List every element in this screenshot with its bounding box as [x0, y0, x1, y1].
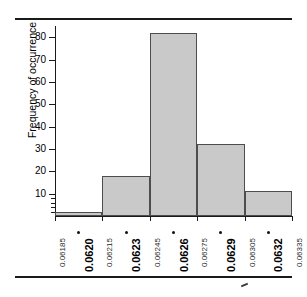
y-tick-label-20: 20 [20, 166, 46, 176]
y-tick-label-40: 40 [20, 122, 46, 132]
bar-0.0629 [197, 144, 244, 216]
y-tick-label-10: 10 [20, 189, 46, 199]
top-horizontal-rule [15, 18, 292, 20]
scan-artifact-mark [241, 283, 248, 287]
x-center-label-0.0632: 0.0632 [273, 238, 284, 272]
figure-panel: Frequency of occurrence 1020304050607080… [0, 0, 307, 297]
x-center-label-0.0626: 0.0626 [179, 238, 190, 272]
y-tick-label-80: 80 [20, 32, 46, 42]
x-tick-0.06185 [55, 216, 56, 221]
y-tick-label-30: 30 [20, 144, 46, 154]
x-center-dot-0.0623 [125, 231, 128, 234]
y-tick-label-70: 70 [20, 55, 46, 65]
x-edge-label-0.06245: 0.06245 [154, 238, 162, 267]
y-tick-label-60: 60 [20, 77, 46, 87]
x-center-dot-0.0632 [267, 231, 270, 234]
x-center-dot-0.0620 [77, 231, 80, 234]
x-edge-label-0.06335: 0.06335 [296, 238, 304, 267]
x-tick-0.06305 [245, 216, 246, 221]
bar-0.0623 [102, 176, 149, 216]
bar-0.0632 [245, 191, 292, 216]
x-center-label-0.0623: 0.0623 [131, 238, 142, 272]
x-tick-0.06215 [102, 216, 103, 221]
bar-0.0626 [150, 33, 197, 216]
x-edge-label-0.06215: 0.06215 [106, 238, 114, 267]
x-center-label-0.0620: 0.0620 [84, 238, 95, 272]
x-tick-0.06335 [292, 216, 293, 221]
x-tick-0.06275 [197, 216, 198, 221]
x-center-dot-0.0626 [172, 231, 175, 234]
x-edge-label-0.06275: 0.06275 [201, 238, 209, 267]
x-edge-label-0.06305: 0.06305 [249, 238, 257, 267]
x-tick-0.06245 [150, 216, 151, 221]
bottom-horizontal-rule [15, 276, 292, 278]
histogram-bars [55, 26, 292, 216]
y-tick-label-50: 50 [20, 99, 46, 109]
bar-0.0620 [55, 212, 102, 216]
x-edge-label-0.06185: 0.06185 [59, 238, 67, 267]
x-center-dot-0.0629 [219, 231, 222, 234]
x-axis-line [55, 216, 292, 217]
x-center-label-0.0629: 0.0629 [226, 238, 237, 272]
